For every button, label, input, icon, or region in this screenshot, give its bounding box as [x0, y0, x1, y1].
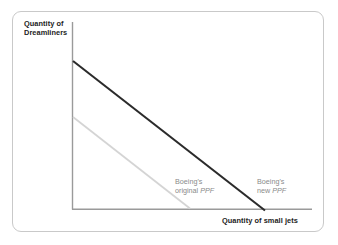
- ppf-new-label-abbrev: PPF: [272, 186, 286, 195]
- ppf-new-label: Boeing's new PPF: [257, 177, 286, 195]
- x-axis-title: Quantity of small jets: [222, 216, 298, 225]
- ppf-original-label-abbrev: PPF: [200, 186, 214, 195]
- ppf-figure: Quantity of Dreamliners Quantity of smal…: [0, 0, 338, 245]
- ppf-original-line: [73, 117, 190, 209]
- ppf-new-label-line2: new PPF: [257, 186, 286, 195]
- ppf-original-label-prefix: original: [175, 186, 200, 195]
- ppf-new-label-prefix: new: [257, 186, 272, 195]
- ppf-new-label-line1: Boeing's: [257, 177, 286, 186]
- y-axis-title: Quantity of Dreamliners: [24, 19, 67, 38]
- ppf-original-label-line1: Boeing's: [175, 177, 214, 186]
- ppf-new-line: [73, 61, 265, 211]
- ppf-original-label: Boeing's original PPF: [175, 177, 214, 195]
- ppf-original-label-line2: original PPF: [175, 186, 214, 195]
